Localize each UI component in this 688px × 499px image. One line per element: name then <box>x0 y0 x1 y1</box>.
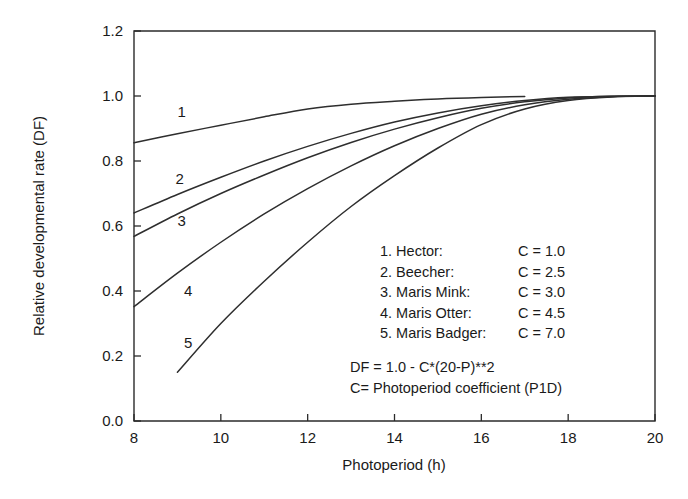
y-tick-label: 0.4 <box>102 282 123 299</box>
x-axis-tick-labels: 8101214161820 <box>130 429 664 446</box>
curve-label-5: 5 <box>184 334 192 351</box>
y-tick-label: 0.6 <box>102 217 123 234</box>
legend-entry-value: C = 3.0 <box>518 284 565 300</box>
x-tick-label: 12 <box>299 429 316 446</box>
curve-1 <box>134 96 525 142</box>
legend-entry-value: C = 4.5 <box>518 305 565 321</box>
x-axis-title: Photoperiod (h) <box>342 456 445 473</box>
curve-label-3: 3 <box>178 212 186 229</box>
y-tick-label: 1.0 <box>102 87 123 104</box>
curve-label-2: 2 <box>175 170 183 187</box>
curve-number-labels: 12345 <box>175 103 192 351</box>
y-tick-label: 1.2 <box>102 22 123 39</box>
legend-entry-label: 4. Maris Otter: <box>380 305 472 321</box>
curve-2 <box>134 96 655 213</box>
x-tick-label: 20 <box>647 429 664 446</box>
legend: 1. Hector:C = 1.02. Beecher:C = 2.53. Ma… <box>380 243 565 341</box>
legend-entry-label: 1. Hector: <box>380 243 443 259</box>
equation-text: DF = 1.0 - C*(20-P)**2 <box>350 359 495 375</box>
x-tick-label: 18 <box>560 429 577 446</box>
legend-entry-label: 3. Maris Mink: <box>380 284 470 300</box>
legend-entry-label: 2. Beecher: <box>380 264 454 280</box>
curve-3 <box>134 96 655 236</box>
chart-svg: 0.00.20.40.60.81.01.2 8101214161820 1234… <box>0 0 688 499</box>
chart-figure: 0.00.20.40.60.81.01.2 8101214161820 1234… <box>0 0 688 499</box>
formula-annotations: DF = 1.0 - C*(20-P)**2C= Photoperiod coe… <box>350 359 562 396</box>
legend-entry-label: 5. Maris Badger: <box>380 325 486 341</box>
y-axis-tick-labels: 0.00.20.40.60.81.01.2 <box>102 22 123 429</box>
y-tick-label: 0.2 <box>102 347 123 364</box>
y-axis-title: Relative developmental rate (DF) <box>30 116 47 336</box>
x-tick-label: 8 <box>130 429 138 446</box>
y-tick-label: 0.0 <box>102 412 123 429</box>
y-tick-label: 0.8 <box>102 152 123 169</box>
x-tick-label: 16 <box>473 429 490 446</box>
curve-label-4: 4 <box>184 282 192 299</box>
x-tick-label: 10 <box>212 429 229 446</box>
x-tick-label: 14 <box>386 429 403 446</box>
legend-entry-value: C = 2.5 <box>518 264 565 280</box>
coefficient-note-text: C= Photoperiod coefficient (P1D) <box>350 380 562 396</box>
legend-entry-value: C = 1.0 <box>518 243 565 259</box>
curve-label-1: 1 <box>178 103 186 120</box>
legend-entry-value: C = 7.0 <box>518 325 565 341</box>
